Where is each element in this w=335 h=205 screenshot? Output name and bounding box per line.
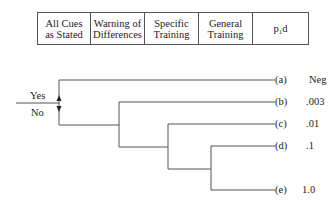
- yes-label: Yes: [30, 90, 45, 102]
- leaf-d-id: (d): [275, 140, 287, 152]
- leaf-b-id: (b): [275, 96, 287, 108]
- leaf-a-value: Neg: [309, 74, 327, 86]
- leaf-e-value: 1.0: [302, 184, 315, 196]
- leaf-e-id: (e): [275, 184, 287, 196]
- leaf-c-value: .01: [306, 118, 319, 130]
- no-label: No: [31, 107, 44, 119]
- leaf-d-value: .1: [306, 140, 314, 152]
- leaf-a-id: (a): [275, 74, 287, 86]
- arrow-up-icon: [57, 95, 62, 101]
- leaf-b-value: .003: [306, 96, 324, 108]
- arrow-down-icon: [57, 106, 62, 112]
- leaf-c-id: (c): [275, 118, 287, 130]
